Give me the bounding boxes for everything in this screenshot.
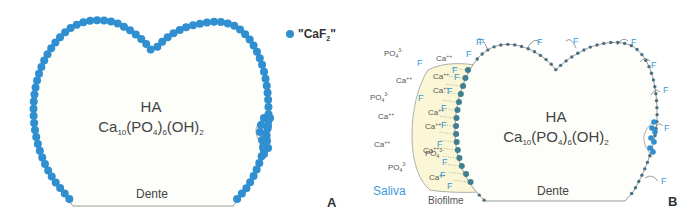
fluoride-ion-label: F xyxy=(442,157,448,167)
panel-b: PO43-Ca++FCa++PO43-FCa++Ca++PO43-Ca++Ca+… xyxy=(370,36,677,209)
adsorbed-dot xyxy=(655,106,658,109)
adsorbed-dot xyxy=(520,45,523,48)
fluoride-ion-label: F xyxy=(418,93,424,103)
fluoride-ion-label: F xyxy=(441,120,447,130)
adsorbed-dot xyxy=(652,78,655,81)
calcium-ion-label: Ca++ xyxy=(436,53,452,63)
saliva-label: Saliva xyxy=(373,184,406,198)
adsorbed-dot xyxy=(655,99,658,102)
caf2-dot xyxy=(32,133,40,141)
adsorbed-dot xyxy=(478,193,481,196)
caf2-dot xyxy=(30,105,38,113)
biofilm-dot xyxy=(453,123,459,129)
caf2-dot xyxy=(86,17,94,25)
biofilm-dot xyxy=(465,67,471,73)
phosphate-ion-label: PO43- xyxy=(384,47,403,59)
calcium-ion-label: Ca++ xyxy=(396,75,412,85)
fluoride-ion-label: F xyxy=(537,37,543,47)
caf2-dot xyxy=(30,91,38,99)
caf2-dot xyxy=(650,149,656,155)
adsorbed-dot xyxy=(544,58,547,61)
fluoride-ion-label: F xyxy=(454,72,460,82)
adsorbed-dot xyxy=(637,180,640,183)
caf2-dot xyxy=(32,84,40,92)
calcium-ion-label: Ca++ xyxy=(378,111,394,121)
fluoride-ion-label: F xyxy=(466,49,472,59)
phosphate-ion-label: PO43- xyxy=(388,161,407,173)
fluoride-ion-label: F xyxy=(479,37,485,47)
fluoride-ion-label: F xyxy=(661,176,667,186)
caf2-dot xyxy=(652,129,658,135)
mineral-name-b: HA xyxy=(546,108,567,125)
tooth-label-a: Dente xyxy=(136,187,168,201)
biofilm-label: Biofilme xyxy=(428,195,464,206)
caf2-dot xyxy=(100,16,108,24)
biofilm-dot xyxy=(455,147,461,153)
release-arrow-icon xyxy=(645,176,658,181)
caf2-dot xyxy=(30,98,38,106)
caf2-dot xyxy=(65,195,73,203)
biofilm-dot xyxy=(459,163,465,169)
mineral-formula-b: Ca10(PO4)6(OH)2 xyxy=(503,128,609,147)
caf2-dot xyxy=(224,19,232,27)
fluoride-ion-label: F xyxy=(447,86,453,96)
adsorbed-dot xyxy=(539,54,542,57)
adsorbed-dot xyxy=(482,198,485,201)
caf2-dot xyxy=(33,77,41,85)
biofilm-dot xyxy=(460,83,466,89)
fluoride-ion-label: F xyxy=(440,170,446,180)
adsorbed-dot xyxy=(654,92,657,95)
adsorbed-dot xyxy=(595,43,598,46)
adsorbed-dot xyxy=(609,41,612,44)
diagram-canvas: HA Ca10(PO4)6(OH)2 Dente "CaF2" A PO43-C… xyxy=(0,0,700,219)
panel-letter-a: A xyxy=(327,195,337,210)
legend-label: "CaF2" xyxy=(298,27,336,42)
adsorbed-dot xyxy=(640,53,643,56)
adsorbed-dot xyxy=(533,50,536,53)
adsorbed-dot xyxy=(559,64,562,67)
caf2-dot xyxy=(264,96,272,104)
adsorbed-dot xyxy=(486,48,489,51)
tooth-label-b: Dente xyxy=(537,184,569,198)
adsorbed-dot xyxy=(476,57,479,60)
panel-a: HA Ca10(PO4)6(OH)2 Dente "CaF2" A xyxy=(30,16,337,210)
caf2-dot xyxy=(263,82,271,90)
biofilm-dot xyxy=(456,99,462,105)
adsorbed-dot xyxy=(526,47,529,50)
fluoride-ion-label: F xyxy=(663,85,669,95)
adsorbed-dot xyxy=(582,48,585,51)
phosphate-ion-label: PO43- xyxy=(370,91,389,103)
caf2-dot xyxy=(210,18,218,26)
caf2-dot xyxy=(196,20,204,28)
caf2-dot xyxy=(266,114,274,122)
caf2-dot xyxy=(31,126,39,134)
fluoride-ion-label: F xyxy=(441,103,447,113)
adsorbed-dot xyxy=(554,68,557,71)
panel-letter-b: B xyxy=(668,194,677,209)
fluoride-ion-label: F xyxy=(437,139,443,149)
biofilm-dot xyxy=(463,171,469,177)
biofilm-dot xyxy=(456,155,462,161)
biofilm-dot xyxy=(454,115,460,121)
caf2-dot xyxy=(264,103,272,111)
adsorbed-dot xyxy=(506,43,509,46)
caf2-dot xyxy=(30,119,38,127)
biofilm-dot xyxy=(454,139,460,145)
caf2-dot xyxy=(257,121,265,129)
fluoride-ion-label: F xyxy=(651,60,657,70)
fluoride-ion-label: F xyxy=(447,181,453,191)
adsorbed-dot xyxy=(650,71,653,74)
adsorbed-dot xyxy=(648,154,651,157)
adsorbed-dot xyxy=(550,63,553,66)
caf2-dot xyxy=(260,68,268,76)
caf2-dot xyxy=(217,18,225,26)
caf2-dot xyxy=(260,150,268,158)
caf2-dot xyxy=(651,139,657,145)
adsorbed-dot xyxy=(646,161,649,164)
adsorbed-dot xyxy=(576,52,579,55)
adsorbed-dot xyxy=(655,113,658,116)
adsorbed-dot xyxy=(480,52,483,55)
adsorbed-dot xyxy=(623,42,626,45)
biofilm-dot xyxy=(462,75,468,81)
adsorbed-dot xyxy=(640,174,643,177)
